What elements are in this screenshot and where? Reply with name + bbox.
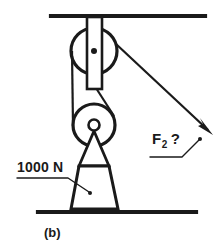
figure-caption: (b) bbox=[44, 226, 61, 239]
load-label: 1000 N bbox=[17, 160, 63, 174]
force-arrowhead bbox=[198, 118, 213, 135]
force-subscript: 2 bbox=[162, 139, 168, 150]
effort-rope bbox=[116, 44, 208, 130]
force-leader-dot bbox=[198, 137, 202, 141]
load-leader-dot bbox=[88, 191, 92, 195]
force-symbol: F bbox=[152, 130, 162, 147]
weight-block bbox=[71, 166, 118, 209]
force-question-mark: ? bbox=[171, 130, 181, 147]
movable-pulley-hub bbox=[89, 120, 100, 131]
pulley-diagram-figure: 1000 N F2? (b) bbox=[0, 0, 224, 249]
fixed-pulley-axle-dot bbox=[91, 48, 97, 54]
force-label: F2? bbox=[152, 131, 180, 150]
diagram-canvas bbox=[0, 0, 224, 249]
hanger-triangle bbox=[79, 131, 109, 166]
